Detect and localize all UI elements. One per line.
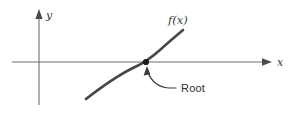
root-annotation-label: Root: [181, 82, 205, 94]
function-curve: [86, 30, 183, 99]
root-leader-line: [148, 72, 176, 88]
root-point-marker: [143, 59, 149, 65]
root-of-function-diagram: y x f(x) Root: [0, 0, 294, 120]
figure-container: y x f(x) Root: [0, 0, 294, 120]
y-axis-label: y: [45, 9, 53, 22]
x-axis-label: x: [277, 56, 284, 69]
x-axis-arrowhead: [262, 58, 272, 65]
y-axis-arrowhead: [35, 9, 42, 19]
root-leader-arrowhead: [144, 66, 151, 75]
function-label: f(x): [167, 13, 188, 27]
